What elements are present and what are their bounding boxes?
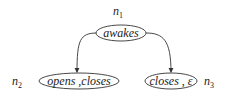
node-n3-id: n3 [204,74,214,90]
node-n3-label: closes , ε [149,74,192,88]
tree-diagram: awakes n1 opens ,closes n2 closes , ε n3 [0,0,227,102]
node-n2-id: n2 [12,74,22,90]
node-n2: opens ,closes n2 [12,73,119,90]
edge-n1-n2 [77,33,97,72]
node-n2-label: opens ,closes [47,74,111,88]
edge-n1-n3 [146,33,171,72]
node-n1: awakes n1 [96,4,146,41]
node-n1-id: n1 [113,4,123,20]
node-n3: closes , ε n3 [145,73,214,90]
node-n1-label: awakes [103,26,139,40]
